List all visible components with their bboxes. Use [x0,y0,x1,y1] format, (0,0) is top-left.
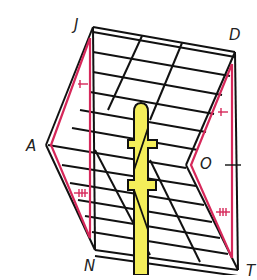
vertex-label-t: T [246,264,255,279]
vertex-label-d: D [229,28,241,43]
yellow-pole [128,103,157,275]
vertex-label-o: O [200,157,212,172]
vertex-label-n: N [84,259,95,274]
vertex-label-a: A [26,139,36,154]
vertex-label-j: J [74,18,78,33]
triangle-jan-highlight [51,38,90,238]
